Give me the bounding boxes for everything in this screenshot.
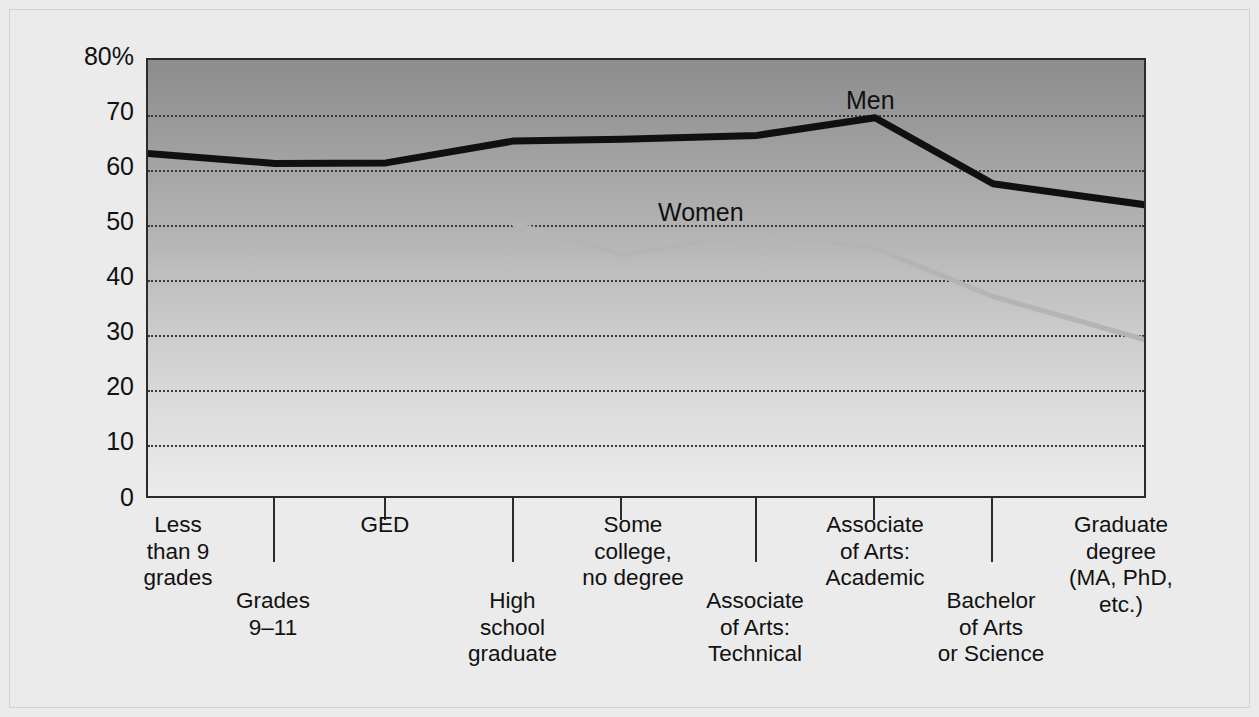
y-tick-label: 30 — [0, 319, 134, 344]
x-label-associate-of-arts-academic: Associate of Arts: Academic — [785, 512, 965, 592]
y-tick-label: 70 — [0, 99, 134, 124]
x-label-graduate-degree: Graduate degree (MA, PhD, etc.) — [1036, 512, 1206, 618]
men-series-label: Men — [846, 88, 895, 113]
y-tick-label: 60 — [0, 154, 134, 179]
y-axis: 80% 70 60 50 40 30 20 10 0 — [0, 0, 134, 717]
y-tick-label: 80% — [0, 44, 134, 69]
chart-figure: 80% 70 60 50 40 30 20 10 0 Men Women — [0, 0, 1259, 717]
y-tick-label: 0 — [0, 485, 134, 510]
x-label-associate-of-arts-technical: Associate of Arts: Technical — [665, 588, 845, 668]
x-label-ged: GED — [330, 512, 440, 539]
x-label-less-than-9-grades: Less than 9 grades — [108, 512, 248, 592]
y-tick-label: 50 — [0, 209, 134, 234]
x-label-grades-9-11: Grades 9–11 — [203, 588, 343, 641]
series-plot — [148, 60, 1146, 498]
men-series-line — [148, 118, 1146, 205]
x-label-high-school-graduate: High school graduate — [430, 588, 595, 668]
x-tick-hsgrad — [512, 498, 514, 562]
y-tick-label: 10 — [0, 429, 134, 454]
x-tick-grades911 — [273, 498, 275, 562]
x-label-some-college-no-degree: Some college, no degree — [543, 512, 723, 592]
y-tick-label: 20 — [0, 374, 134, 399]
women-series-label: Women — [658, 200, 744, 225]
plot-area: Men Women — [146, 58, 1146, 498]
y-tick-label: 40 — [0, 264, 134, 289]
women-series-line — [514, 224, 1146, 341]
x-tick-bachelor — [991, 498, 993, 562]
x-tick-aa-technical — [755, 498, 757, 562]
